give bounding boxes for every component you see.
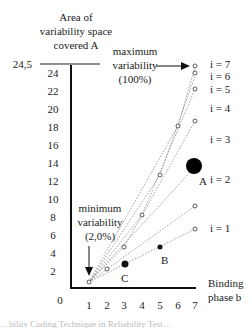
series-label-i6: i = 6 xyxy=(210,70,231,82)
variability-chart: Area of variability space covered A 24,5… xyxy=(0,0,252,328)
y-tick: 16 xyxy=(48,139,60,151)
y-tick: 2 xyxy=(50,265,56,277)
y-tick: 10 xyxy=(48,193,60,205)
point-b xyxy=(158,245,163,250)
series-label-i7: i = 7 xyxy=(210,58,231,70)
marker xyxy=(105,267,109,271)
x-tick: 5 xyxy=(157,299,163,311)
marker-i2-end xyxy=(193,204,197,208)
x-tick: 3 xyxy=(121,299,127,311)
y-tick-labels: 24 22 20 18 16 14 12 10 8 6 4 2 0 xyxy=(48,67,64,306)
y-axis-title-line-1: Area of xyxy=(59,11,93,23)
x-axis-title-line-1: Binding xyxy=(208,277,244,289)
line-i6 xyxy=(89,76,195,282)
marker-i4-end xyxy=(193,119,197,123)
y-tick: 8 xyxy=(50,211,56,223)
marker-i1-end xyxy=(193,227,197,231)
y-tick: 18 xyxy=(48,121,60,133)
series-label-i5: i = 5 xyxy=(210,83,231,95)
arrow-down-icon xyxy=(85,267,93,276)
x-tick-labels: 1 2 3 4 5 6 7 xyxy=(86,299,198,311)
marker xyxy=(158,173,162,177)
marker xyxy=(122,245,126,249)
x-tick: 7 xyxy=(192,299,198,311)
max-note-line-3: (100%) xyxy=(119,73,152,86)
line-i7 xyxy=(89,67,195,282)
y-tick: 4 xyxy=(50,247,56,259)
max-note-line-2: variability xyxy=(112,59,158,71)
line-i5 xyxy=(89,89,195,282)
y-tick: 22 xyxy=(48,85,59,97)
marker-origin xyxy=(87,280,91,284)
series-lines xyxy=(89,67,195,282)
marker-i7-end xyxy=(193,64,197,68)
series-label-i4: i = 4 xyxy=(210,102,231,114)
marker-i6-end xyxy=(193,71,197,75)
open-markers xyxy=(87,64,197,284)
marker-i5-end xyxy=(193,87,197,91)
series-label-i1: i = 1 xyxy=(210,222,230,234)
min-note-line-2: variability xyxy=(77,216,123,228)
y-max-label: 24,5 xyxy=(13,58,33,70)
label-b: B xyxy=(161,254,168,266)
x-tick: 6 xyxy=(175,299,181,311)
max-note-line-1: maximum xyxy=(113,45,158,57)
y-tick: 12 xyxy=(48,175,59,187)
y-tick: 20 xyxy=(48,103,60,115)
label-c: C xyxy=(121,272,128,284)
arrow-right-icon xyxy=(181,62,190,70)
y-axis-title-line-3: covered A xyxy=(54,39,99,51)
min-note-line-1: minimum xyxy=(79,202,122,214)
y-tick: 14 xyxy=(48,157,60,169)
figure-caption: …bility Coding Technique in Reliability … xyxy=(0,320,252,328)
series-labels: i = 7 i = 6 i = 5 i = 4 i = 3 i = 2 i = … xyxy=(210,58,231,234)
y-tick: 24 xyxy=(48,67,60,79)
min-note-line-3: (2,0%) xyxy=(85,230,116,243)
x-tick: 1 xyxy=(86,299,92,311)
y-zero-label: 0 xyxy=(57,294,63,306)
y-tick: 6 xyxy=(50,229,56,241)
point-a xyxy=(186,158,202,174)
x-tick: 2 xyxy=(104,299,110,311)
series-label-i2: i = 2 xyxy=(210,173,230,185)
marker xyxy=(140,213,144,217)
marker xyxy=(176,124,180,128)
x-tick: 4 xyxy=(139,299,145,311)
point-c xyxy=(122,261,129,268)
label-a: A xyxy=(199,175,207,187)
series-label-i3: i = 3 xyxy=(210,133,231,145)
x-axis-title-line-2: phase b xyxy=(208,291,242,303)
y-axis-title-line-2: variability space xyxy=(40,25,113,37)
